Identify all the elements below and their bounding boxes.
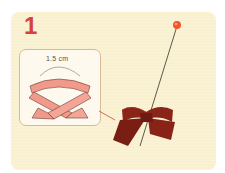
- measurement-arc: [40, 67, 80, 76]
- ribbon-bow: [113, 107, 175, 146]
- illustration-layer: [0, 0, 225, 173]
- pin-head-icon: [173, 21, 181, 29]
- measurement-label: 1.5 cm: [46, 55, 68, 62]
- ribbon-loop-top: [30, 79, 90, 93]
- connector-line: [99, 111, 115, 120]
